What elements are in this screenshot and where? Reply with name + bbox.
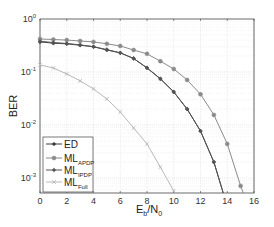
y-tick-label: 100 [23,13,37,24]
x-tick-label: 6 [118,196,123,206]
ber-chart: 0246810121416 10010-110-210-3 BER Eb/N0 … [0,0,274,227]
y-axis-label: BER [7,95,19,118]
x-tick-label: 12 [195,196,205,206]
y-tick-label: 10-3 [21,172,37,183]
y-axis-ticks: 10010-110-210-3 [21,13,37,183]
x-tick-label: 10 [169,196,179,206]
x-tick-label: 0 [37,196,42,206]
y-tick-label: 10-2 [21,119,37,130]
x-tick-label: 2 [64,196,69,206]
legend-label: ED [64,139,78,150]
x-axis-label: Eb/N0 [136,203,162,217]
x-tick-label: 16 [249,196,259,206]
x-tick-label: 4 [91,196,96,206]
y-tick-label: 10-1 [21,66,37,77]
x-tick-label: 14 [222,196,232,206]
legend: EDMLAPDPMLIPDPMLFull [43,137,94,192]
